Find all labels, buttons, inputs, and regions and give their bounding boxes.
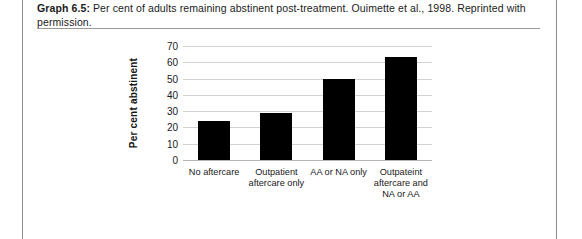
plot-area: 010203040506070No aftercareOutpatient af… [183, 46, 432, 160]
x-axis-tick-label: Outpatient aftercare only [245, 167, 307, 189]
y-axis-tick-label: 10 [167, 138, 178, 149]
y-axis-tick-label: 0 [172, 155, 178, 166]
x-axis-tick-label: Outpateint aftercare and NA or AA [370, 167, 432, 200]
x-axis-tick-label: No aftercare [183, 167, 245, 178]
bar [323, 79, 355, 160]
y-axis-tick-label: 60 [167, 57, 178, 68]
x-axis-tick-label: AA or NA only [308, 167, 370, 178]
y-axis-title: Per cent abstinent [128, 44, 144, 162]
bar [385, 57, 417, 160]
bar-chart: Per cent abstinent 010203040506070No aft… [0, 0, 582, 239]
y-axis-tick-label: 50 [167, 73, 178, 84]
bar [260, 113, 292, 160]
gridline [183, 160, 432, 161]
y-axis-tick-label: 40 [167, 89, 178, 100]
y-axis-tick-label: 70 [167, 41, 178, 52]
y-axis-tick-label: 30 [167, 106, 178, 117]
gridline [183, 46, 432, 47]
y-axis-tick-label: 20 [167, 122, 178, 133]
bar [198, 121, 230, 160]
